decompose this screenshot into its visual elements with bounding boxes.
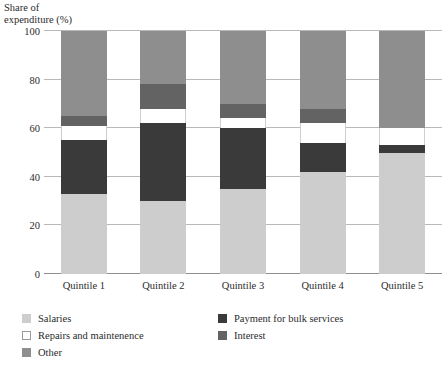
bar-group[interactable] bbox=[379, 31, 425, 274]
legend-item[interactable]: Salaries bbox=[22, 310, 144, 326]
legend-item[interactable]: Interest bbox=[218, 327, 343, 343]
bar-segment[interactable] bbox=[379, 31, 425, 128]
bar-segment[interactable] bbox=[379, 128, 425, 145]
bar-segment[interactable] bbox=[379, 145, 425, 152]
bar-group[interactable] bbox=[140, 31, 186, 274]
stacked-bar[interactable] bbox=[379, 31, 425, 274]
y-tick-label: 60 bbox=[6, 123, 40, 134]
bar-segment[interactable] bbox=[220, 118, 266, 128]
legend-swatch-icon bbox=[218, 331, 227, 340]
legend-swatch-icon bbox=[22, 314, 31, 323]
stacked-bar[interactable] bbox=[300, 31, 346, 274]
legend-swatch-icon bbox=[22, 331, 31, 340]
bar-segment[interactable] bbox=[140, 123, 186, 201]
bar-segment[interactable] bbox=[379, 153, 425, 275]
bar-segment[interactable] bbox=[61, 31, 107, 116]
bar-segment[interactable] bbox=[140, 31, 186, 84]
plot-area bbox=[44, 31, 442, 274]
bar-segment[interactable] bbox=[300, 172, 346, 274]
bar-group[interactable] bbox=[61, 31, 107, 274]
legend-swatch-icon bbox=[218, 314, 227, 323]
bar-group[interactable] bbox=[220, 31, 266, 274]
bar-segment[interactable] bbox=[61, 116, 107, 126]
bar-segment[interactable] bbox=[61, 126, 107, 141]
legend-label: Repairs and maintenence bbox=[38, 330, 144, 341]
x-axis-tick-labels: Quintile 1Quintile 2Quintile 3Quintile 4… bbox=[44, 280, 442, 296]
legend-label: Salaries bbox=[38, 313, 71, 324]
y-tick-label: 20 bbox=[6, 220, 40, 231]
bar-segment[interactable] bbox=[300, 31, 346, 109]
y-axis-tick-labels: 020406080100 bbox=[0, 31, 40, 274]
legend-label: Other bbox=[38, 347, 62, 358]
bar-segment[interactable] bbox=[220, 189, 266, 274]
legend-column-right: Payment for bulk servicesInterest bbox=[218, 310, 343, 344]
y-tick-label: 0 bbox=[6, 269, 40, 280]
legend-item[interactable]: Payment for bulk services bbox=[218, 310, 343, 326]
legend-column-left: SalariesRepairs and maintenenceOther bbox=[22, 310, 144, 361]
bar-segment[interactable] bbox=[140, 109, 186, 124]
legend-swatch-icon bbox=[22, 348, 31, 357]
stacked-bar[interactable] bbox=[220, 31, 266, 274]
bar-segment[interactable] bbox=[220, 128, 266, 189]
stacked-bar[interactable] bbox=[140, 31, 186, 274]
bar-segment[interactable] bbox=[140, 84, 186, 108]
y-axis-title: Share of expenditure (%) bbox=[4, 2, 72, 25]
bar-segment[interactable] bbox=[300, 143, 346, 172]
legend-item[interactable]: Other bbox=[22, 344, 144, 360]
bar-segment[interactable] bbox=[300, 123, 346, 142]
legend-label: Interest bbox=[234, 330, 266, 341]
legend-label: Payment for bulk services bbox=[234, 313, 343, 324]
bar-group[interactable] bbox=[300, 31, 346, 274]
y-tick-label: 80 bbox=[6, 74, 40, 85]
figure-caption bbox=[22, 362, 442, 371]
y-tick-label: 100 bbox=[6, 26, 40, 37]
y-tick-label: 40 bbox=[6, 171, 40, 182]
bar-segment[interactable] bbox=[220, 104, 266, 119]
stacked-bar[interactable] bbox=[61, 31, 107, 274]
bar-segment[interactable] bbox=[61, 194, 107, 274]
legend-item[interactable]: Repairs and maintenence bbox=[22, 327, 144, 343]
bar-segment[interactable] bbox=[300, 109, 346, 124]
bar-segment[interactable] bbox=[220, 31, 266, 104]
x-tick-label: Quintile 5 bbox=[354, 280, 448, 291]
bar-segment[interactable] bbox=[140, 201, 186, 274]
bar-segment[interactable] bbox=[61, 140, 107, 193]
